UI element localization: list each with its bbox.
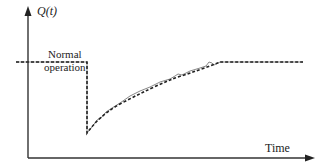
normal-operation-annotation: Normal operation — [44, 48, 86, 74]
x-axis-arrow-icon — [305, 155, 315, 162]
y-axis-label: Q(t) — [37, 5, 57, 17]
x-axis-label: Time — [265, 142, 290, 154]
annotation-line-1: Normal — [44, 48, 86, 61]
annotation-line-2: operation — [44, 61, 86, 74]
y-axis-arrow-icon — [25, 6, 32, 16]
